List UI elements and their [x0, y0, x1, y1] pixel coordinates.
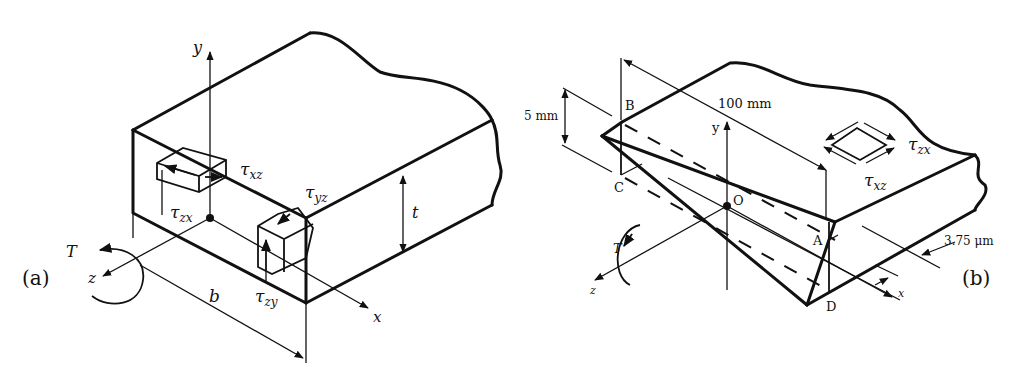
- x-axis-label-b: x: [898, 287, 905, 300]
- z-axis-label-a: z: [87, 269, 96, 287]
- point-B: B: [625, 98, 635, 113]
- tau-yz-label-a: τyz: [305, 182, 328, 205]
- tau-xz-label-b: τxz: [864, 170, 887, 193]
- y-axis-label-a: y: [192, 38, 203, 57]
- dimension-5mm-label: 5 mm: [524, 109, 559, 123]
- torsion-figure: y z x T b t τxz τzx: [0, 0, 1018, 382]
- tau-xz-label-a: τxz: [240, 159, 263, 182]
- dimension-b-line: [140, 265, 303, 358]
- point-D: D: [826, 299, 836, 314]
- point-C: C: [614, 180, 624, 195]
- dimension-100mm-line: [624, 60, 826, 170]
- panel-a: y z x T b t τxz τzx: [22, 33, 501, 363]
- point-A: A: [812, 233, 823, 248]
- dimension-thickness-label: 3.75 μm: [944, 234, 994, 248]
- z-axis-label-b: z: [589, 284, 596, 297]
- tau-zy-label-a: τzy: [255, 286, 278, 309]
- torque-label-b: T: [613, 241, 623, 256]
- origin-label: O: [733, 193, 744, 208]
- dimension-b-label: b: [209, 286, 220, 306]
- thin-strip-b: [602, 63, 986, 305]
- x-axis-b: [727, 206, 892, 297]
- stress-element-top: [157, 148, 226, 215]
- x-axis-label-a: x: [373, 308, 382, 326]
- surface-stress-element-b: [824, 122, 895, 164]
- panel-label-b: (b): [962, 266, 990, 290]
- tau-zx-label-a: τzx: [170, 202, 193, 225]
- panel-b: y O z x T 100 mm 5 mm 3.75 μm B C A D: [524, 58, 994, 314]
- dimension-t-label: t: [412, 203, 419, 222]
- dimension-100mm-label: 100 mm: [718, 96, 772, 111]
- torque-label-a: T: [66, 242, 78, 261]
- rectangular-bar-a: [133, 33, 501, 303]
- torque-arrow-a: [92, 249, 143, 304]
- panel-label-a: (a): [22, 266, 50, 290]
- y-axis-label-b: y: [711, 120, 720, 135]
